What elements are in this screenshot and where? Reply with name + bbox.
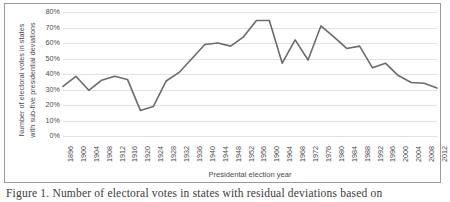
plot-area — [63, 12, 437, 136]
chart-frame: Number of electoral votes in states with… — [4, 3, 441, 183]
y-tick-label: 60% — [32, 39, 60, 47]
x-tick-label: 1920 — [143, 146, 152, 162]
x-tick-label: 1968 — [298, 146, 307, 162]
x-tick-label: 1908 — [105, 146, 114, 162]
x-tick-label: 1988 — [363, 146, 372, 162]
y-tick-label: 40% — [32, 70, 60, 78]
figure-caption: Figure 1. Number of electoral votes in s… — [6, 187, 446, 201]
data-series-line — [63, 12, 437, 136]
x-tick-label: 2004 — [414, 146, 423, 162]
y-axis-title: Number of electoral votes in states with… — [7, 10, 33, 150]
x-tick-label: 1964 — [285, 146, 294, 162]
x-tick-label: 1960 — [272, 146, 281, 162]
y-tick-label: 50% — [32, 55, 60, 63]
x-tick-label: 1912 — [118, 146, 127, 162]
x-tick-label: 1916 — [130, 146, 139, 162]
x-tick-label: 1948 — [234, 146, 243, 162]
x-axis-title: Presidental election year — [63, 170, 437, 179]
x-tick-label: 1940 — [208, 146, 217, 162]
x-tick-label: 1904 — [92, 146, 101, 162]
y-tick-label: 0% — [32, 132, 60, 140]
x-tick-label: 1984 — [350, 146, 359, 162]
x-tick-label: 1936 — [195, 146, 204, 162]
x-tick-label: 1944 — [221, 146, 230, 162]
x-tick-label: 2000 — [401, 146, 410, 162]
x-tick-label: 1972 — [311, 146, 320, 162]
gridline — [63, 136, 437, 137]
x-tick-label: 1924 — [156, 146, 165, 162]
x-tick-label: 1900 — [79, 146, 88, 162]
x-tick-label: 1992 — [376, 146, 385, 162]
y-tick-label: 20% — [32, 101, 60, 109]
x-tick-label: 2008 — [427, 146, 436, 162]
y-tick-label: 80% — [32, 8, 60, 16]
x-tick-label: 1996 — [388, 146, 397, 162]
y-tick-label: 10% — [32, 117, 60, 125]
x-tick-label: 1980 — [337, 146, 346, 162]
x-tick-label: 2012 — [440, 146, 449, 162]
x-tick-label: 1952 — [247, 146, 256, 162]
x-tick-label: 1932 — [182, 146, 191, 162]
x-tick-label: 1976 — [324, 146, 333, 162]
x-tick-label: 1896 — [66, 146, 75, 162]
y-tick-label: 30% — [32, 86, 60, 94]
y-axis-tick-labels: 80%70%60%50%40%30%20%10%0% — [32, 12, 60, 136]
x-tick-label: 1928 — [169, 146, 178, 162]
figure-container: Number of electoral votes in states with… — [0, 0, 450, 202]
x-axis-tick-labels: 1896190019041908191219161920192419281932… — [63, 138, 437, 170]
x-tick-label: 1956 — [259, 146, 268, 162]
y-tick-label: 70% — [32, 24, 60, 32]
